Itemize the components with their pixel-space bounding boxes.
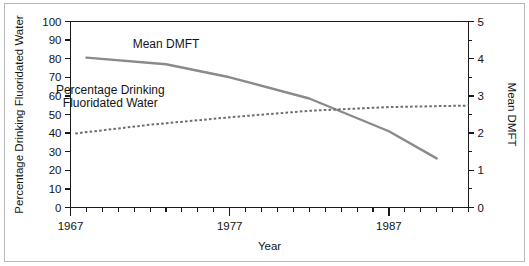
y-left-tick-label: 20 xyxy=(49,164,62,176)
axes-group xyxy=(71,22,469,208)
y-axis-left-title: Percentage Drinking Fluoridated Water xyxy=(13,15,25,214)
x-axis-title: Year xyxy=(258,240,281,252)
series-annotation-1: Percentage Drinking xyxy=(56,83,165,97)
y-left-tick-label: 100 xyxy=(42,16,61,28)
series-annotations-group: Mean DMFTPercentage DrinkingFluoridated … xyxy=(56,37,200,111)
y-right-tick-label: 1 xyxy=(478,164,484,176)
x-tick-label: 1977 xyxy=(217,220,243,232)
y-axis-right-title: Mean DMFT xyxy=(506,83,518,147)
y-left-tick-label: 40 xyxy=(49,127,62,139)
y-right-tick-label: 5 xyxy=(478,16,484,28)
y-left-tick-label: 90 xyxy=(49,34,62,46)
line-chart: 1967197719870102030405060708090100012345… xyxy=(0,0,529,266)
y-right-tick-label: 3 xyxy=(478,90,484,102)
y-left-tick-label: 50 xyxy=(49,109,62,121)
x-tick-label: 1967 xyxy=(58,220,84,232)
series-annotation-2: Fluoridated Water xyxy=(63,96,158,110)
y-right-tick-label: 0 xyxy=(478,202,484,214)
figure-container: 1967197719870102030405060708090100012345… xyxy=(0,0,529,266)
tick-labels-group: 1967197719870102030405060708090100012345 xyxy=(42,16,484,232)
y-left-tick-label: 80 xyxy=(49,53,62,65)
y-left-tick-label: 0 xyxy=(55,202,61,214)
y-left-tick-label: 10 xyxy=(49,183,62,195)
axis-titles-group: Year Percentage Drinking Fluoridated Wat… xyxy=(13,15,518,251)
y-right-tick-label: 4 xyxy=(478,53,485,65)
y-left-tick-label: 70 xyxy=(49,71,62,83)
y-left-tick-label: 30 xyxy=(49,146,62,158)
series-annotation-0: Mean DMFT xyxy=(133,37,200,51)
y-right-tick-label: 2 xyxy=(478,127,484,139)
ticks-group xyxy=(65,22,474,216)
x-tick-label: 1987 xyxy=(376,220,402,232)
